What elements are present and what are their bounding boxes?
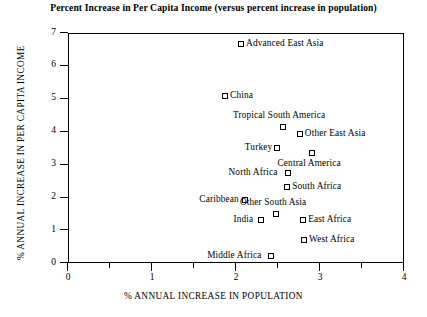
data-point-label: East Africa <box>308 214 351 224</box>
data-point-label: Caribbean <box>199 194 239 204</box>
data-point-marker[interactable] <box>274 145 280 151</box>
x-axis-tick <box>67 263 68 271</box>
y-axis-tick <box>60 197 68 198</box>
x-axis-minor-tick <box>109 263 110 268</box>
data-point-marker[interactable] <box>273 211 279 217</box>
data-point-marker[interactable] <box>284 184 290 190</box>
plot-area <box>68 33 404 263</box>
data-point-marker[interactable] <box>238 41 244 47</box>
data-point-label: India <box>233 214 253 224</box>
data-point-marker[interactable] <box>297 131 303 137</box>
data-point-marker[interactable] <box>285 170 291 176</box>
data-point-label: China <box>230 90 253 100</box>
x-axis-tick-label: 4 <box>392 272 416 282</box>
data-point-marker[interactable] <box>268 253 274 259</box>
x-axis-tick-label: 1 <box>140 272 164 282</box>
y-axis-tick <box>60 32 68 33</box>
data-point-label: Turkey <box>245 142 272 152</box>
y-axis-tick-label: 4 <box>34 125 56 135</box>
data-point-label: Other South Asia <box>240 197 306 207</box>
data-point-label: South Africa <box>292 181 341 191</box>
chart-title: Percent Increase in Per Capita Income (v… <box>0 2 427 13</box>
data-point-label: Middle Africa <box>207 250 261 260</box>
x-axis-tick <box>151 263 152 271</box>
data-point-marker[interactable] <box>222 93 228 99</box>
y-axis-tick-label: 5 <box>34 92 56 102</box>
x-axis-tick-label: 0 <box>56 272 80 282</box>
x-axis-tick-label: 3 <box>308 272 332 282</box>
data-point-label: West Africa <box>309 234 355 244</box>
data-point-label: Tropical South America <box>233 110 325 120</box>
data-point-marker[interactable] <box>280 124 286 130</box>
x-axis-minor-tick <box>277 263 278 268</box>
y-axis-tick <box>60 131 68 132</box>
data-point-label: Other East Asia <box>305 128 366 138</box>
data-point-label: Central America <box>277 158 340 168</box>
x-axis-tick <box>235 263 236 271</box>
x-axis-tick <box>403 263 404 271</box>
y-axis-tick <box>60 65 68 66</box>
y-axis-tick <box>60 164 68 165</box>
x-axis-tick-label: 2 <box>224 272 248 282</box>
data-point-marker[interactable] <box>301 237 307 243</box>
y-axis-tick-label: 2 <box>34 191 56 201</box>
y-axis-tick <box>60 229 68 230</box>
y-axis-tick-label: 3 <box>34 158 56 168</box>
y-axis-tick-label: 1 <box>34 224 56 234</box>
y-axis-tick-label: 7 <box>34 27 56 37</box>
x-axis-title: % ANNUAL INCREASE IN POPULATION <box>0 291 427 301</box>
y-axis-tick-label: 0 <box>34 257 56 267</box>
data-point-label: North Africa <box>228 167 277 177</box>
x-axis-minor-tick <box>361 263 362 268</box>
y-axis-tick <box>60 98 68 99</box>
data-point-marker[interactable] <box>309 150 315 156</box>
x-axis-tick <box>319 263 320 271</box>
data-point-marker[interactable] <box>300 217 306 223</box>
scatter-chart-figure: Percent Increase in Per Capita Income (v… <box>0 0 427 317</box>
y-axis-tick-label: 6 <box>34 59 56 69</box>
x-axis-minor-tick <box>193 263 194 268</box>
data-point-marker[interactable] <box>258 217 264 223</box>
y-axis-title: % ANNUAL INCREASE IN PER CAPITA INCOME <box>16 45 26 260</box>
data-point-label: Advanced East Asia <box>246 38 324 48</box>
